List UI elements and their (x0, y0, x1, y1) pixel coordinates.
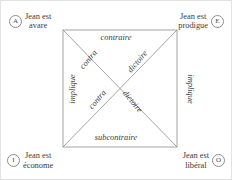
vertex-a-line2: avare (29, 21, 47, 30)
square-of-opposition-figure: A Jean est avare Jean est prodigue E I J… (0, 0, 232, 180)
vertex-badge-e-icon: E (211, 15, 224, 28)
vertex-e-line2: prodigue (178, 21, 208, 30)
vertex-badge-o-icon: O (212, 154, 225, 167)
relation-label-contraire: contraire (1, 34, 231, 42)
vertex-e-line1: Jean est (180, 12, 206, 21)
vertex-e-proposition: Jean est prodigue (178, 12, 208, 31)
vertex-a-proposition: Jean est avare (25, 12, 51, 31)
vertex-i-line2: économe (23, 161, 53, 170)
relation-label-subcontraire: subcontraire (1, 134, 231, 142)
vertex-o-proposition: Jean est libéral (183, 151, 209, 170)
vertex-e: Jean est prodigue E (178, 12, 224, 31)
vertex-a: A Jean est avare (9, 12, 51, 31)
vertex-o: Jean est libéral O (183, 151, 225, 170)
vertex-o-line2: libéral (185, 161, 206, 170)
relation-label-implique-left: implique (69, 74, 77, 103)
relation-label-implique-right: implique (185, 74, 193, 103)
vertex-i: I Jean est économe (7, 151, 53, 170)
vertex-badge-i-icon: I (7, 154, 20, 167)
vertex-i-line1: Jean est (25, 151, 51, 160)
vertex-o-line1: Jean est (183, 151, 209, 160)
vertex-i-proposition: Jean est économe (23, 151, 53, 170)
vertex-badge-a-icon: A (9, 15, 22, 28)
vertex-a-line1: Jean est (25, 12, 51, 21)
